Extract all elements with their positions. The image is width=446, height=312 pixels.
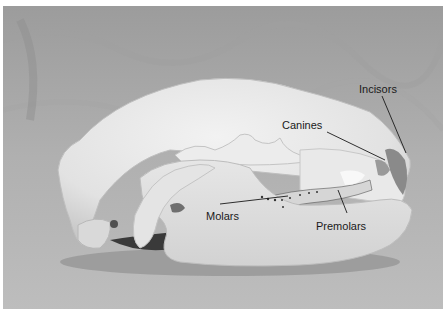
skull-photo	[3, 6, 443, 309]
label-molars: Molars	[206, 211, 239, 222]
label-incisors: Incisors	[359, 84, 397, 95]
photo-frame: Incisors Canines Molars Premolars	[3, 6, 443, 309]
label-canines: Canines	[282, 120, 322, 131]
label-premolars: Premolars	[316, 221, 366, 232]
